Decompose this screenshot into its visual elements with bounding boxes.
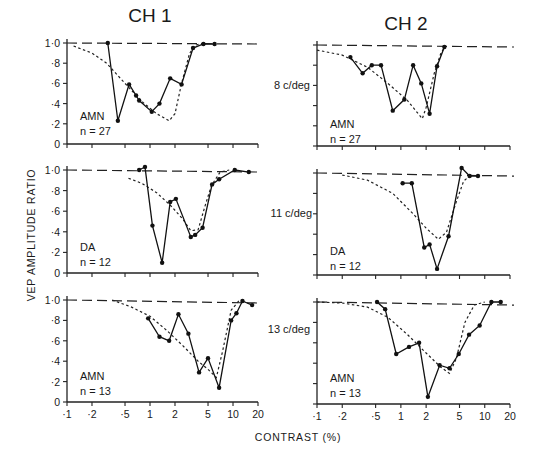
data-point: [476, 174, 480, 178]
data-point: [247, 170, 251, 174]
x-tick-label: 2: [172, 408, 178, 420]
data-point: [394, 352, 398, 356]
group-label: AMN: [80, 110, 105, 122]
data-point: [191, 46, 195, 50]
data-point: [417, 341, 421, 345]
n-label: n = 27: [330, 133, 361, 145]
data-point: [422, 245, 426, 249]
data-point: [127, 82, 131, 86]
data-point: [370, 63, 374, 67]
data-point: [459, 166, 463, 170]
model-fit-curve: [317, 302, 485, 373]
n-label: n = 13: [330, 387, 361, 399]
data-point: [157, 101, 161, 105]
x-axis-label: CONTRAST (%): [255, 431, 341, 443]
data-point: [426, 395, 430, 399]
y-tick-label: ·8: [51, 314, 60, 326]
row-label-8cdeg: 8 c/deg: [274, 79, 310, 91]
y-tick-label: ·2: [51, 246, 60, 258]
data-point: [150, 109, 154, 113]
y-tick-label: 1·0: [45, 164, 60, 176]
data-point: [489, 300, 493, 304]
data-point: [419, 81, 423, 85]
column-title-ch1: CH 1: [128, 5, 171, 26]
y-tick-label: 0: [54, 267, 60, 279]
n-label: n = 13: [80, 385, 111, 397]
data-point: [233, 168, 237, 172]
data-point: [189, 235, 193, 239]
model-fit-curve: [317, 46, 445, 119]
data-point: [240, 299, 244, 303]
plot-panels: 0·2·4·6·81·0AMNn = 27AMNn = 270·2·4·6·81…: [45, 37, 516, 422]
data-point: [200, 225, 204, 229]
data-point: [391, 108, 395, 112]
y-tick-label: ·6: [51, 205, 60, 217]
data-point: [197, 370, 201, 374]
row-label-13cdeg: 13 c/deg: [268, 323, 310, 335]
y-tick-label: ·8: [51, 185, 60, 197]
model-fit-curve: [112, 300, 239, 378]
data-point: [160, 261, 164, 265]
data-point: [116, 119, 120, 123]
group-label: DA: [80, 241, 96, 253]
panel-2: AMNn = 27: [313, 41, 514, 150]
data-point: [375, 300, 379, 304]
n-label: n = 12: [80, 256, 111, 268]
column-title-ch2: CH 2: [384, 13, 427, 34]
x-tick-label: ·5: [371, 410, 380, 422]
data-point: [467, 174, 471, 178]
n-label: n = 27: [80, 125, 111, 137]
data-point: [442, 45, 446, 49]
x-tick-label: 10: [227, 408, 239, 420]
data-point: [435, 267, 439, 271]
y-tick-label: ·6: [51, 335, 60, 347]
x-tick-label: ·1: [62, 408, 71, 420]
data-point: [186, 331, 190, 335]
data-point: [106, 41, 110, 45]
x-tick-label: 20: [504, 410, 516, 422]
data-point: [168, 76, 172, 80]
reference-line: [67, 43, 262, 44]
data-point: [150, 223, 154, 227]
data-point: [427, 111, 431, 115]
group-label: AMN: [80, 370, 105, 382]
group-label: AMN: [330, 372, 355, 384]
y-tick-label: 0: [54, 396, 60, 408]
n-label: n = 12: [330, 260, 361, 272]
data-point: [206, 356, 210, 360]
figure: CH 1 CH 2 VEP AMPLITUDE RATIO CONTRAST (…: [0, 0, 542, 462]
data-point: [400, 181, 404, 185]
data-point: [234, 311, 238, 315]
reference-line: [67, 300, 262, 303]
data-point: [410, 181, 414, 185]
x-tick-label: 1: [147, 408, 153, 420]
data-point: [467, 332, 471, 336]
model-fit-curve: [128, 170, 229, 231]
row-label-11cdeg: 11 c/deg: [271, 207, 312, 219]
y-tick-label: ·8: [51, 57, 60, 69]
data-point: [168, 200, 172, 204]
data-point: [167, 339, 171, 343]
data-point: [435, 64, 439, 68]
x-tick-label: ·5: [120, 408, 129, 420]
panel-1: 0·2·4·6·81·0AMNn = 27: [45, 37, 262, 150]
data-point: [176, 312, 180, 316]
data-point: [179, 82, 183, 86]
data-point: [146, 316, 150, 320]
y-tick-label: 0: [54, 138, 60, 150]
data-point: [201, 42, 205, 46]
x-tick-label: ·2: [87, 408, 96, 420]
y-tick-label: ·4: [51, 226, 60, 238]
x-tick-label: 20: [252, 408, 264, 420]
x-tick-label: 5: [457, 410, 463, 422]
data-line: [139, 167, 249, 263]
reference-line: [317, 173, 514, 176]
y-tick-label: 1·0: [45, 37, 60, 49]
x-tick-label: 5: [205, 408, 211, 420]
data-point: [193, 233, 197, 237]
y-tick-label: ·4: [51, 355, 60, 367]
data-point: [210, 182, 214, 186]
data-point: [143, 165, 147, 169]
group-label: DA: [330, 245, 346, 257]
data-point: [411, 63, 415, 67]
